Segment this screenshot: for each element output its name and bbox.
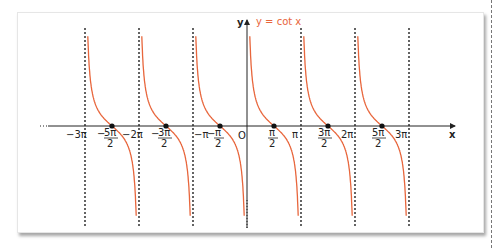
tick-neg3pi2: − 3π 2 bbox=[151, 127, 172, 149]
svg-text:3π: 3π bbox=[318, 127, 330, 138]
tick-neg5pi2: − 5π 2 bbox=[97, 127, 118, 149]
svg-text:2: 2 bbox=[321, 138, 327, 149]
svg-text:2: 2 bbox=[375, 138, 381, 149]
tick-pi: π bbox=[292, 129, 298, 140]
origin-label: O bbox=[238, 130, 246, 141]
tick-pi2: π 2 bbox=[268, 127, 278, 149]
tick-5pi2: 5π 2 bbox=[372, 127, 386, 149]
tick-2pi: 2π bbox=[341, 129, 353, 140]
tick-3pi: 3π bbox=[395, 129, 407, 140]
chart-title: y = cot x bbox=[256, 16, 301, 27]
tick-neg3pi: −3π bbox=[66, 129, 87, 140]
svg-text:π: π bbox=[215, 127, 221, 138]
tick-negpi2: − π 2 bbox=[207, 127, 224, 149]
cot-chart: y = cot x y x O −3π −2π −π π 2π 3π − 5π … bbox=[0, 0, 497, 248]
svg-text:π: π bbox=[269, 127, 275, 138]
svg-text:5π: 5π bbox=[372, 127, 384, 138]
svg-text:2: 2 bbox=[107, 138, 113, 149]
svg-text:2: 2 bbox=[161, 138, 167, 149]
svg-text:2: 2 bbox=[215, 138, 221, 149]
tick-3pi2: 3π 2 bbox=[318, 127, 332, 149]
y-axis-label: y bbox=[237, 17, 244, 28]
svg-text:3π: 3π bbox=[158, 127, 170, 138]
tick-neg2pi: −2π bbox=[122, 129, 143, 140]
svg-text:2: 2 bbox=[269, 138, 275, 149]
x-axis-label: x bbox=[449, 129, 456, 140]
svg-text:5π: 5π bbox=[104, 127, 116, 138]
